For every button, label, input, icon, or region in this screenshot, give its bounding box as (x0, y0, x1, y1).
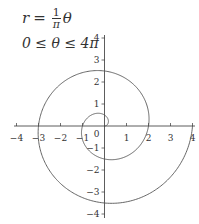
x-tick-label: −4 (10, 133, 24, 143)
y-tick-label: −3 (86, 187, 100, 197)
x-tick-label: 0 (94, 129, 100, 139)
equation: r = 1 π θ (22, 7, 72, 30)
fraction: 1 π (52, 7, 61, 30)
y-tick-label: −2 (86, 165, 99, 175)
x-tick-label: −2 (54, 133, 67, 143)
y-tick-label: 2 (94, 77, 100, 87)
y-tick-label: −1 (86, 143, 99, 153)
equation-variable: θ (63, 11, 72, 26)
x-tick-label: 1 (124, 133, 130, 143)
y-tick-label: −4 (86, 209, 100, 219)
equation-lhs: r (22, 11, 29, 26)
spiral-plot: −4−3−2−101234 4321−1−2−3−4 (0, 0, 199, 224)
fraction-denominator: π (53, 19, 60, 30)
equals-sign: = (33, 11, 46, 26)
axes (14, 35, 195, 218)
domain-constraint: 0 ≤ θ ≤ 4π (22, 36, 99, 50)
x-tick-label: 3 (168, 133, 174, 143)
y-tick-label: 1 (94, 99, 100, 109)
y-tick-label: 3 (94, 55, 100, 65)
